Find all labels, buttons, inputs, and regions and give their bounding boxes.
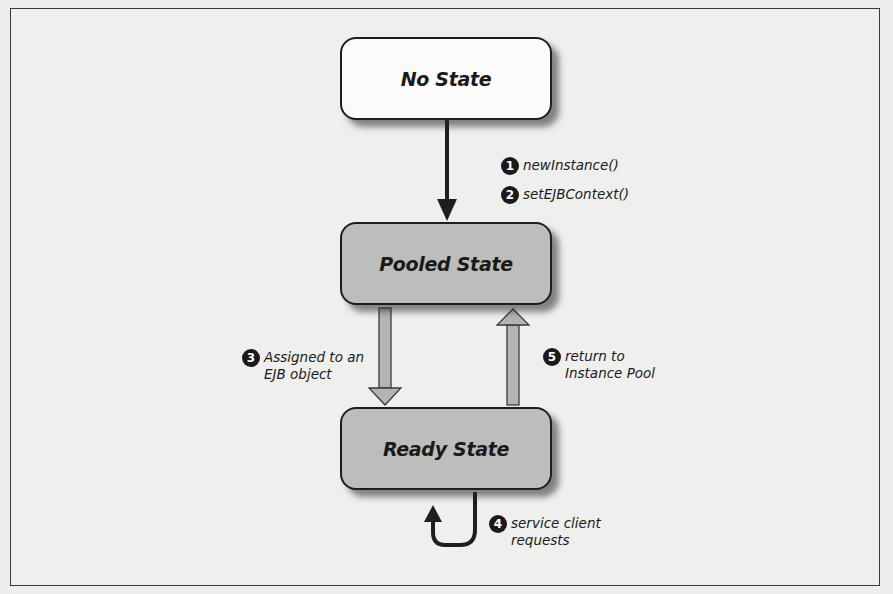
state-ready: Ready State	[340, 407, 552, 490]
step-number-badge: 5	[543, 348, 561, 366]
step-number-badge: 1	[501, 157, 519, 175]
transition-label: newInstance()	[523, 157, 619, 174]
arrow-no-state-to-pooled	[437, 120, 457, 221]
arrow-ready-self-loop	[424, 492, 475, 545]
transition-label: setEJBContext()	[523, 186, 629, 203]
state-label: Ready State	[383, 438, 509, 460]
transition-label: return to Instance Pool	[565, 348, 655, 382]
state-no-state: No State	[340, 37, 552, 120]
arrow-pooled-to-ready	[369, 308, 401, 405]
state-label: No State	[401, 68, 492, 90]
transition-note-1: 1 newInstance()	[501, 157, 619, 175]
step-number-badge: 2	[501, 186, 519, 204]
state-label: Pooled State	[379, 253, 513, 275]
transition-note-4: 4 service client requests	[489, 515, 601, 549]
transition-note-3: 3 Assigned to an EJB object	[242, 349, 364, 383]
step-number-badge: 3	[242, 349, 260, 367]
arrow-ready-to-pooled	[497, 309, 529, 405]
step-number-badge: 4	[489, 515, 507, 533]
transition-label: service client requests	[511, 515, 601, 549]
transition-note-5: 5 return to Instance Pool	[543, 348, 655, 382]
transition-label: Assigned to an EJB object	[264, 349, 364, 383]
transition-note-2: 2 setEJBContext()	[501, 186, 629, 204]
state-pooled: Pooled State	[340, 222, 552, 305]
